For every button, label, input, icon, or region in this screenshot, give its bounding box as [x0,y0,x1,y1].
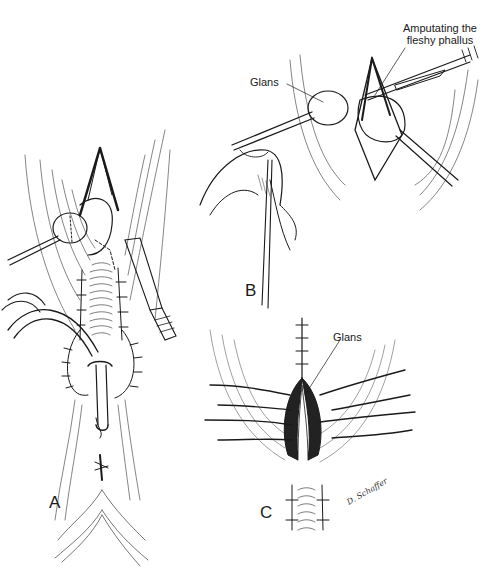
panel-c-drawing [205,318,415,530]
panel-b-drawing [200,46,478,308]
annotation-glans-b: Glans [250,76,279,88]
panel-a-drawing [2,130,176,566]
panel-label-a: A [49,494,60,513]
panel-label-c: C [260,504,272,523]
panel-label-b: B [245,282,256,301]
annotation-amputating-line2: fleshy phallus [385,34,490,46]
annotation-amputating: Amputating the fleshy phallus [385,22,490,46]
annotation-glans-c: Glans [333,331,362,343]
annotation-amputating-line1: Amputating the [385,22,490,34]
